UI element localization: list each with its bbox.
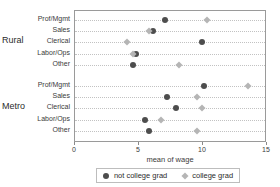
x-tick-mark: [138, 142, 139, 145]
x-tick-label: 5: [136, 146, 140, 153]
x-tick-label: 15: [262, 146, 270, 153]
legend-circle-icon: [103, 172, 110, 179]
legend-entry-not-college-grad: not college grad: [103, 171, 167, 180]
category-label: Other: [0, 126, 70, 134]
category-label: Prof/Mgmt: [0, 81, 70, 89]
x-tick-label: 0: [72, 146, 76, 153]
category-label: Labor/Ops: [0, 49, 70, 57]
chart-legend: not college grad college grad: [96, 168, 240, 183]
legend-entry-college-grad: college grad: [181, 171, 233, 180]
category-label: Prof/Mgmt: [0, 15, 70, 23]
category-label: Sales: [0, 92, 70, 100]
x-tick-mark: [202, 142, 203, 145]
category-label: Sales: [0, 26, 70, 34]
x-tick-mark: [74, 142, 75, 145]
legend-label: college grad: [192, 171, 233, 180]
group-label: Rural: [2, 35, 44, 45]
x-tick-label: 10: [198, 146, 206, 153]
dot-chart: Prof/MgmtSalesClericalLabor/OpsOtherProf…: [0, 0, 280, 187]
legend-diamond-icon: [181, 172, 188, 179]
legend-label: not college grad: [114, 171, 167, 180]
category-axis: Prof/MgmtSalesClericalLabor/OpsOtherProf…: [0, 10, 280, 142]
category-label: Other: [0, 60, 70, 68]
group-label: Metro: [2, 101, 44, 111]
category-label: Labor/Ops: [0, 115, 70, 123]
x-axis-title: mean of wage: [74, 155, 266, 164]
x-tick-mark: [266, 142, 267, 145]
